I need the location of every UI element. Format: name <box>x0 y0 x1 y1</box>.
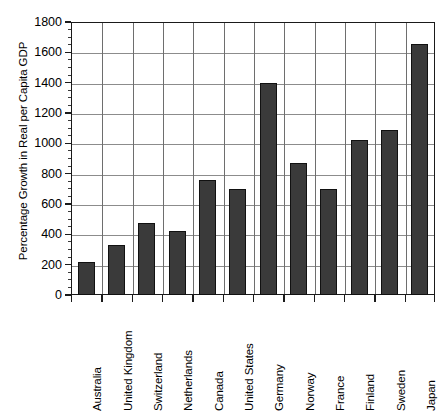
bar-finland <box>351 140 368 295</box>
y-tick-label-0: 0 <box>55 289 62 301</box>
y-tick-label-1000: 1000 <box>34 137 62 149</box>
bar-germany <box>260 83 277 295</box>
x-tick-5 <box>223 295 224 302</box>
x-tick-2 <box>132 295 133 302</box>
x-axis-category-labels: AustraliaUnited KingdomSwitzerlandNether… <box>71 303 435 415</box>
bar-france <box>320 189 337 295</box>
x-label-united-kingdom: United Kingdom <box>122 331 134 411</box>
x-label-united-states: United States <box>243 343 255 411</box>
y-tick-label-800: 800 <box>41 168 62 180</box>
x-tick-4 <box>192 295 193 302</box>
x-tick-6 <box>253 295 254 302</box>
y-tick-label-200: 200 <box>41 259 62 271</box>
y-tick-label-1800: 1800 <box>34 16 62 28</box>
bar-chart: Percentage Growth in Real per Capita GDP… <box>0 0 444 418</box>
y-tick-label-1400: 1400 <box>34 77 62 89</box>
x-label-france: France <box>334 376 346 411</box>
x-tick-10 <box>374 295 375 302</box>
x-label-switzerland: Switzerland <box>152 353 164 411</box>
x-tick-12 <box>434 295 435 302</box>
x-label-australia: Australia <box>91 367 103 411</box>
x-tick-9 <box>344 295 345 302</box>
x-label-germany: Germany <box>273 364 285 411</box>
y-tick-label-1200: 1200 <box>34 107 62 119</box>
x-tick-11 <box>405 295 406 302</box>
x-label-canada: Canada <box>213 371 225 411</box>
bars-group <box>71 22 435 295</box>
bar-sweden <box>381 130 398 295</box>
bar-netherlands <box>169 231 186 296</box>
x-tick-3 <box>162 295 163 302</box>
y-tick-label-1600: 1600 <box>34 46 62 58</box>
bar-canada <box>199 180 216 295</box>
x-label-netherlands: Netherlands <box>182 350 194 411</box>
x-label-japan: Japan <box>425 380 437 411</box>
y-tick-label-400: 400 <box>41 228 62 240</box>
x-tick-0 <box>71 295 72 302</box>
bar-united-kingdom <box>108 245 125 295</box>
x-label-sweden: Sweden <box>395 370 407 411</box>
bar-norway <box>290 163 307 295</box>
y-tick-label-600: 600 <box>41 198 62 210</box>
bar-japan <box>411 44 428 295</box>
x-label-finland: Finland <box>364 374 376 411</box>
x-tick-8 <box>314 295 315 302</box>
x-label-norway: Norway <box>304 373 316 411</box>
bar-switzerland <box>138 223 155 295</box>
y-axis: 020040060080010001200140016001800 <box>0 22 71 295</box>
bar-united-states <box>229 189 246 295</box>
x-tick-1 <box>101 295 102 302</box>
bar-australia <box>78 262 95 295</box>
x-tick-7 <box>283 295 284 302</box>
